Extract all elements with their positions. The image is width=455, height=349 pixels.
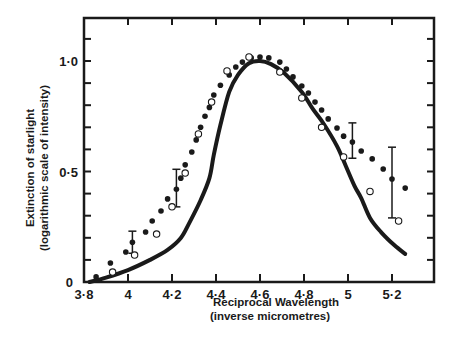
open-circle-series bbox=[109, 54, 401, 275]
x-tick-label: 4 bbox=[124, 287, 132, 302]
filled-data-point bbox=[211, 92, 217, 98]
filled-data-point bbox=[202, 113, 208, 119]
theoretical-curve-line bbox=[90, 61, 406, 282]
filled-data-point bbox=[178, 175, 184, 181]
filled-data-point bbox=[123, 249, 129, 255]
filled-data-point bbox=[240, 59, 246, 65]
filled-data-point bbox=[380, 166, 386, 172]
filled-data-point bbox=[193, 137, 199, 143]
x-axis-subtitle: (inverse micrometres) bbox=[210, 310, 330, 322]
filled-data-point bbox=[369, 156, 375, 162]
filled-data-point bbox=[189, 149, 195, 155]
filled-data-point bbox=[341, 133, 347, 139]
x-tick-label: 5·2 bbox=[383, 287, 402, 302]
open-data-point bbox=[169, 204, 175, 210]
filled-data-point bbox=[93, 274, 99, 280]
filled-data-point bbox=[284, 66, 290, 72]
open-data-point bbox=[224, 68, 230, 74]
open-data-point bbox=[182, 170, 188, 176]
theoretical-curve bbox=[90, 61, 406, 282]
filled-data-point bbox=[319, 107, 325, 113]
filled-data-point bbox=[358, 148, 364, 154]
filled-data-point bbox=[290, 74, 296, 80]
filled-data-point bbox=[158, 208, 164, 214]
filled-dot-series bbox=[93, 54, 408, 279]
filled-data-point bbox=[233, 64, 239, 70]
y-tick-label: 1·0 bbox=[59, 54, 78, 69]
open-data-point bbox=[277, 69, 283, 75]
filled-data-point bbox=[306, 90, 312, 96]
open-data-point bbox=[318, 124, 324, 130]
x-tick-label: 4·2 bbox=[163, 287, 182, 302]
filled-data-point bbox=[277, 59, 283, 65]
open-data-point bbox=[195, 131, 201, 137]
open-data-point bbox=[340, 154, 346, 160]
filled-data-point bbox=[218, 83, 224, 89]
filled-data-point bbox=[312, 99, 318, 105]
x-axis-title: Reciprocal Wavelength bbox=[213, 296, 339, 308]
filled-data-point bbox=[149, 218, 155, 224]
filled-data-point bbox=[325, 116, 331, 122]
filled-data-point bbox=[389, 176, 395, 182]
filled-data-point bbox=[130, 239, 136, 245]
filled-data-point bbox=[299, 83, 305, 89]
y-axis-subtitle: (logarithmic scale of intensity) bbox=[38, 85, 50, 251]
y-tick-label: 0·5 bbox=[59, 165, 78, 180]
filled-data-point bbox=[108, 260, 114, 266]
filled-data-point bbox=[402, 185, 408, 191]
open-data-point bbox=[208, 99, 214, 105]
filled-data-point bbox=[182, 162, 188, 168]
open-data-point bbox=[109, 269, 115, 275]
x-tick-label: 3·8 bbox=[75, 287, 94, 302]
filled-data-point bbox=[257, 54, 263, 60]
open-data-point bbox=[299, 95, 305, 101]
open-data-point bbox=[367, 188, 373, 194]
filled-data-point bbox=[334, 125, 340, 131]
filled-data-point bbox=[198, 125, 204, 131]
y-tick-label: 0 bbox=[66, 275, 73, 290]
filled-data-point bbox=[350, 139, 356, 145]
open-data-point bbox=[131, 252, 137, 258]
y-axis-title: Extinction of starlight bbox=[24, 109, 36, 227]
filled-data-point bbox=[165, 196, 171, 202]
open-data-point bbox=[153, 231, 159, 237]
filled-data-point bbox=[143, 229, 149, 235]
open-data-point bbox=[246, 54, 252, 60]
x-tick-label: 5 bbox=[344, 287, 351, 302]
filled-data-point bbox=[266, 55, 272, 61]
open-data-point bbox=[395, 218, 401, 224]
extinction-chart: 3·844·24·44·64·855·200·51·0 Reciprocal W… bbox=[0, 0, 455, 349]
filled-data-point bbox=[174, 186, 180, 192]
